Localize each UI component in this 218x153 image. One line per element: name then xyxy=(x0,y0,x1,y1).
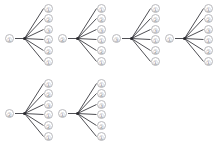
tree-edge xyxy=(78,39,97,51)
leaf-node[interactable]: ③ xyxy=(204,25,213,34)
leaf-node[interactable]: ① xyxy=(204,35,213,44)
tree-edge xyxy=(25,94,44,114)
tree-edge xyxy=(78,114,97,137)
fan-tree: ①①②③①②① xyxy=(164,3,218,75)
tree-edge xyxy=(132,39,151,51)
root-node[interactable]: ③ xyxy=(112,34,121,43)
leaf-node[interactable]: ① xyxy=(44,4,53,13)
leaf-node[interactable]: ① xyxy=(97,110,106,119)
leaf-node[interactable]: ② xyxy=(97,14,106,23)
branch-hub xyxy=(23,37,26,40)
leaf-node[interactable]: ① xyxy=(204,4,213,13)
fan-tree: ②①②③①②① xyxy=(57,3,112,75)
leaf-node[interactable]: ① xyxy=(97,79,106,88)
root-node[interactable]: ① xyxy=(165,34,174,43)
tree-edge xyxy=(185,19,204,39)
diagram-canvas: ①①②③①②①②①②③①②①③①②③①②①①①②③①②①②①②③①②①①①②③①… xyxy=(0,0,218,153)
leaf-node[interactable]: ① xyxy=(44,79,53,88)
leaf-node[interactable]: ① xyxy=(97,4,106,13)
branch-hub xyxy=(76,37,79,40)
leaf-node[interactable]: ② xyxy=(204,14,213,23)
leaf-node[interactable]: ① xyxy=(151,35,160,44)
leaf-node[interactable]: ③ xyxy=(151,25,160,34)
tree-edge xyxy=(185,39,204,62)
leaf-node[interactable]: ① xyxy=(44,132,53,141)
leaf-node[interactable]: ② xyxy=(44,46,53,55)
fan-tree: ③①②③①②① xyxy=(111,3,166,75)
tree-edge xyxy=(25,39,44,51)
tree-edge xyxy=(78,114,97,126)
tree-edge xyxy=(25,114,44,115)
tree-edge xyxy=(78,39,97,40)
branch-hub xyxy=(76,112,79,115)
branch-hub xyxy=(130,37,133,40)
branch-hub xyxy=(23,112,26,115)
root-node[interactable]: ① xyxy=(58,109,67,118)
leaf-node[interactable]: ① xyxy=(97,132,106,141)
leaf-node[interactable]: ② xyxy=(97,121,106,130)
leaf-node[interactable]: ① xyxy=(151,4,160,13)
leaf-node[interactable]: ② xyxy=(151,14,160,23)
tree-edge xyxy=(185,39,204,40)
tree-edge xyxy=(78,39,97,62)
tree-edge xyxy=(78,94,97,114)
leaf-node[interactable]: ② xyxy=(44,89,53,98)
tree-edge xyxy=(132,19,151,39)
tree-edge xyxy=(78,19,97,39)
leaf-node[interactable]: ③ xyxy=(44,25,53,34)
leaf-node[interactable]: ② xyxy=(97,89,106,98)
leaf-node[interactable]: ③ xyxy=(44,100,53,109)
tree-edge xyxy=(25,39,44,62)
branch-hub xyxy=(183,37,186,40)
leaf-node[interactable]: ② xyxy=(151,46,160,55)
root-node[interactable]: ① xyxy=(5,34,14,43)
leaf-node[interactable]: ② xyxy=(44,14,53,23)
leaf-node[interactable]: ① xyxy=(44,35,53,44)
leaf-node[interactable]: ① xyxy=(44,110,53,119)
tree-edge xyxy=(185,39,204,51)
tree-edge xyxy=(25,39,44,40)
leaf-node[interactable]: ② xyxy=(97,46,106,55)
leaf-node[interactable]: ① xyxy=(151,57,160,66)
leaf-node[interactable]: ② xyxy=(44,121,53,130)
leaf-node[interactable]: ① xyxy=(97,57,106,66)
tree-edge xyxy=(25,19,44,39)
leaf-node[interactable]: ① xyxy=(204,57,213,66)
tree-edge xyxy=(25,114,44,126)
tree-edge xyxy=(132,39,151,62)
fan-tree: ①①②③①②① xyxy=(4,3,59,75)
fan-tree: ①①②③①②① xyxy=(57,78,112,150)
root-node[interactable]: ② xyxy=(5,109,14,118)
leaf-node[interactable]: ③ xyxy=(97,100,106,109)
leaf-node[interactable]: ① xyxy=(44,57,53,66)
fan-tree: ②①②③①②① xyxy=(4,78,59,150)
tree-edge xyxy=(132,39,151,40)
root-node[interactable]: ② xyxy=(58,34,67,43)
tree-edge xyxy=(78,114,97,115)
tree-edge xyxy=(25,114,44,137)
leaf-node[interactable]: ③ xyxy=(97,25,106,34)
leaf-node[interactable]: ② xyxy=(204,46,213,55)
leaf-node[interactable]: ① xyxy=(97,35,106,44)
